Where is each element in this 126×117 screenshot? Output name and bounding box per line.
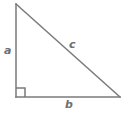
right-triangle-diagram: a c b [0, 0, 126, 117]
hypotenuse-line [16, 4, 120, 97]
label-side-c: c [69, 39, 76, 50]
right-angle-marker-icon [16, 88, 25, 97]
triangle-graphic [0, 0, 126, 117]
label-side-a: a [4, 45, 11, 56]
label-side-b: b [65, 99, 73, 110]
